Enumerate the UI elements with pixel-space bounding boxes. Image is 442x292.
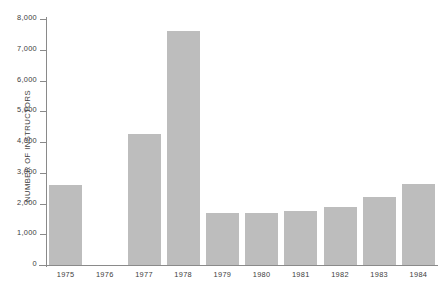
y-axis-tick: 2,000 — [0, 204, 46, 205]
bar-1982 — [324, 207, 357, 265]
x-axis-label-1978: 1978 — [164, 270, 203, 279]
y-axis-tick-label: 5,000 — [17, 105, 37, 114]
y-axis-tick: 6,000 — [0, 81, 46, 82]
plot-area — [46, 19, 438, 265]
y-axis-tick-label: 4,000 — [17, 136, 37, 145]
bar-slot — [85, 19, 124, 265]
y-axis-tick: 3,000 — [0, 173, 46, 174]
bar-slot — [124, 19, 163, 265]
bar-slot — [281, 19, 320, 265]
x-axis-label-1984: 1984 — [399, 270, 438, 279]
y-axis-tick-label: 7,000 — [17, 44, 37, 53]
y-axis-tick-label: 0 — [33, 259, 37, 268]
bar-slot — [360, 19, 399, 265]
bar-1981 — [284, 211, 317, 265]
y-axis-tick-label: 8,000 — [17, 13, 37, 22]
x-axis-line — [39, 265, 438, 266]
bar-1978 — [167, 31, 200, 265]
bar-slot — [399, 19, 438, 265]
bar-chart: NUMBER OF INSTRUCTORS 01,0002,0003,0004,… — [0, 0, 442, 292]
bar-1980 — [245, 213, 278, 265]
bar-1979 — [206, 213, 239, 265]
bar-1983 — [363, 197, 396, 265]
y-axis-tick: 7,000 — [0, 50, 46, 51]
y-axis-tick-label: 2,000 — [17, 198, 37, 207]
bar-1975 — [49, 185, 82, 265]
y-axis-tick-label: 1,000 — [17, 228, 37, 237]
y-axis-tick: 4,000 — [0, 142, 46, 143]
y-axis-tick: 8,000 — [0, 19, 46, 20]
x-axis-label-1979: 1979 — [203, 270, 242, 279]
x-axis-label-1982: 1982 — [320, 270, 359, 279]
bar-slot — [164, 19, 203, 265]
x-axis-label-1976: 1976 — [85, 270, 124, 279]
y-axis-tick-label: 6,000 — [17, 75, 37, 84]
y-axis-tick: 0 — [0, 265, 46, 266]
y-axis-tick: 1,000 — [0, 234, 46, 235]
x-axis-label-1977: 1977 — [124, 270, 163, 279]
bar-slot — [46, 19, 85, 265]
bar-1984 — [402, 184, 435, 265]
bar-slot — [242, 19, 281, 265]
bar-slot — [320, 19, 359, 265]
bar-slot — [203, 19, 242, 265]
x-axis-label-1981: 1981 — [281, 270, 320, 279]
y-axis-tick-label: 3,000 — [17, 167, 37, 176]
y-axis-tick: 5,000 — [0, 111, 46, 112]
y-axis-tick-mark — [40, 265, 46, 266]
x-axis-label-1983: 1983 — [360, 270, 399, 279]
bar-1977 — [128, 134, 161, 265]
x-axis-label-1975: 1975 — [46, 270, 85, 279]
x-axis-label-1980: 1980 — [242, 270, 281, 279]
